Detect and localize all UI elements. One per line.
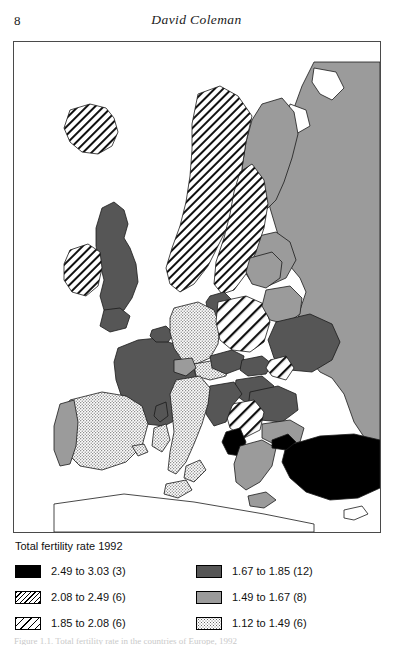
europe-choropleth-map: [14, 42, 380, 532]
map-legend: Total fertility rate 1992 2.49 to 3.03 (…: [14, 540, 379, 640]
running-head-title: David Coleman: [0, 12, 393, 28]
map-figure-frame: [13, 41, 381, 533]
legend-label-4: 1.49 to 1.67 (8): [232, 591, 307, 603]
legend-swatch-mid-gray: [196, 591, 222, 604]
legend-swatch-hatch-dense: [15, 591, 41, 604]
legend-title: Total fertility rate 1992: [15, 540, 123, 552]
legend-label-5: 1.12 to 1.49 (6): [232, 617, 307, 629]
legend-swatch-dark-gray: [196, 565, 222, 578]
legend-swatch-solid-black: [15, 565, 41, 578]
page-header: 8 David Coleman: [0, 0, 393, 40]
legend-label-0: 2.49 to 3.03 (3): [51, 565, 126, 577]
legend-label-3: 1.67 to 1.85 (12): [232, 565, 313, 577]
legend-label-2: 1.85 to 2.08 (6): [51, 617, 126, 629]
legend-swatch-hatch-sparse: [15, 617, 41, 630]
legend-label-1: 2.08 to 2.49 (6): [51, 591, 126, 603]
legend-swatch-stipple: [196, 617, 222, 630]
figure-caption-clipped: Figure 1.1. Total fertility rate in the …: [14, 636, 379, 645]
